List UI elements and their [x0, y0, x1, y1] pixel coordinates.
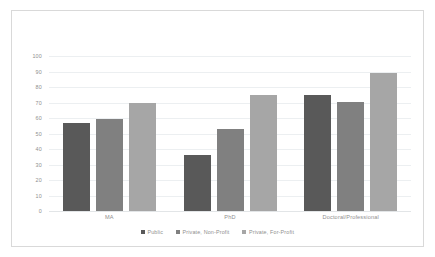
legend-swatch-icon [176, 230, 180, 234]
x-axis-tick-label: MA [49, 214, 170, 220]
y-axis-tick-label: 60 [36, 115, 42, 121]
y-axis-tick-label: 50 [36, 131, 42, 137]
x-axis-tick-label: PhD [170, 214, 291, 220]
legend-item[interactable]: Public [141, 229, 163, 235]
x-axis: MAPhDDoctoral/Professional [49, 214, 411, 220]
y-axis-tick-label: 40 [36, 146, 42, 152]
bar-group [290, 56, 411, 211]
y-axis-tick-label: 20 [36, 177, 42, 183]
bar[interactable] [370, 73, 397, 211]
legend: PublicPrivate, Non-ProfitPrivate, For-Pr… [12, 229, 423, 235]
legend-swatch-icon [242, 230, 246, 234]
gridline [49, 211, 411, 212]
y-axis-tick-label: 30 [36, 162, 42, 168]
bar[interactable] [63, 123, 90, 211]
legend-label: Public [147, 229, 163, 235]
chart-frame: 0102030405060708090100 MAPhDDoctoral/Pro… [11, 10, 424, 247]
bar[interactable] [304, 95, 331, 211]
bar[interactable] [184, 155, 211, 211]
legend-swatch-icon [141, 230, 145, 234]
y-axis-tick-label: 100 [32, 53, 42, 59]
x-axis-tick-label: Doctoral/Professional [290, 214, 411, 220]
bar[interactable] [96, 119, 123, 211]
y-axis-tick-label: 10 [36, 193, 42, 199]
legend-label: Private, Non-Profit [183, 229, 230, 235]
legend-item[interactable]: Private, Non-Profit [176, 229, 229, 235]
bar-group [49, 56, 170, 211]
bar[interactable] [217, 129, 244, 211]
y-axis-tick-label: 70 [36, 100, 42, 106]
bar-groups [49, 56, 411, 211]
bar[interactable] [129, 103, 156, 212]
y-axis-tick-label: 80 [36, 84, 42, 90]
y-axis-tick-label: 90 [36, 69, 42, 75]
bar[interactable] [337, 102, 364, 211]
y-axis: 0102030405060708090100 [12, 56, 46, 211]
legend-label: Private, For-Profit [249, 229, 294, 235]
bar[interactable] [250, 95, 277, 211]
y-axis-tick-label: 0 [39, 208, 42, 214]
bar-group [170, 56, 291, 211]
legend-item[interactable]: Private, For-Profit [242, 229, 294, 235]
